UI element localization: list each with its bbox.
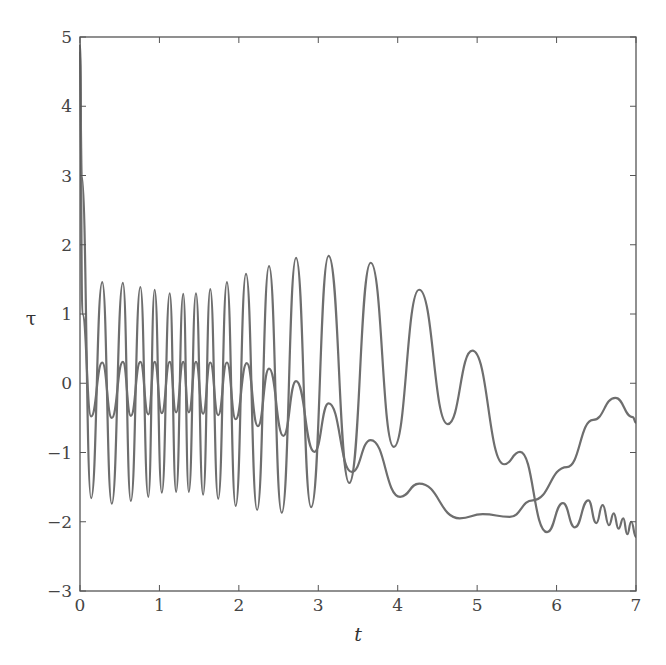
y-tick-label: −2	[47, 512, 72, 532]
x-tick-label: 0	[75, 595, 86, 615]
x-axis-label: t	[354, 623, 362, 645]
x-tick-label: 4	[392, 595, 403, 615]
y-axis-ticks: 543210−1−2−3	[47, 27, 636, 601]
x-tick-label: 5	[472, 595, 483, 615]
y-axis-label: τ	[26, 307, 37, 329]
y-tick-label: 4	[61, 96, 72, 116]
chart: 543210−1−2−3 01234567 t τ	[0, 0, 666, 665]
x-tick-label: 7	[631, 595, 642, 615]
x-axis-ticks: 01234567	[75, 37, 642, 615]
plot-frame	[80, 37, 636, 591]
y-tick-label: −3	[47, 581, 72, 601]
y-tick-label: −1	[47, 443, 72, 463]
y-tick-label: 5	[61, 27, 72, 47]
y-tick-label: 0	[61, 373, 72, 393]
y-tick-label: 1	[61, 304, 72, 324]
x-tick-label: 3	[313, 595, 324, 615]
series-line-small-oscillation	[80, 51, 636, 518]
x-tick-label: 1	[154, 595, 165, 615]
plot-lines	[80, 44, 636, 537]
y-tick-label: 2	[61, 235, 72, 255]
y-tick-label: 3	[61, 166, 72, 186]
x-tick-label: 6	[551, 595, 562, 615]
x-tick-label: 2	[233, 595, 244, 615]
